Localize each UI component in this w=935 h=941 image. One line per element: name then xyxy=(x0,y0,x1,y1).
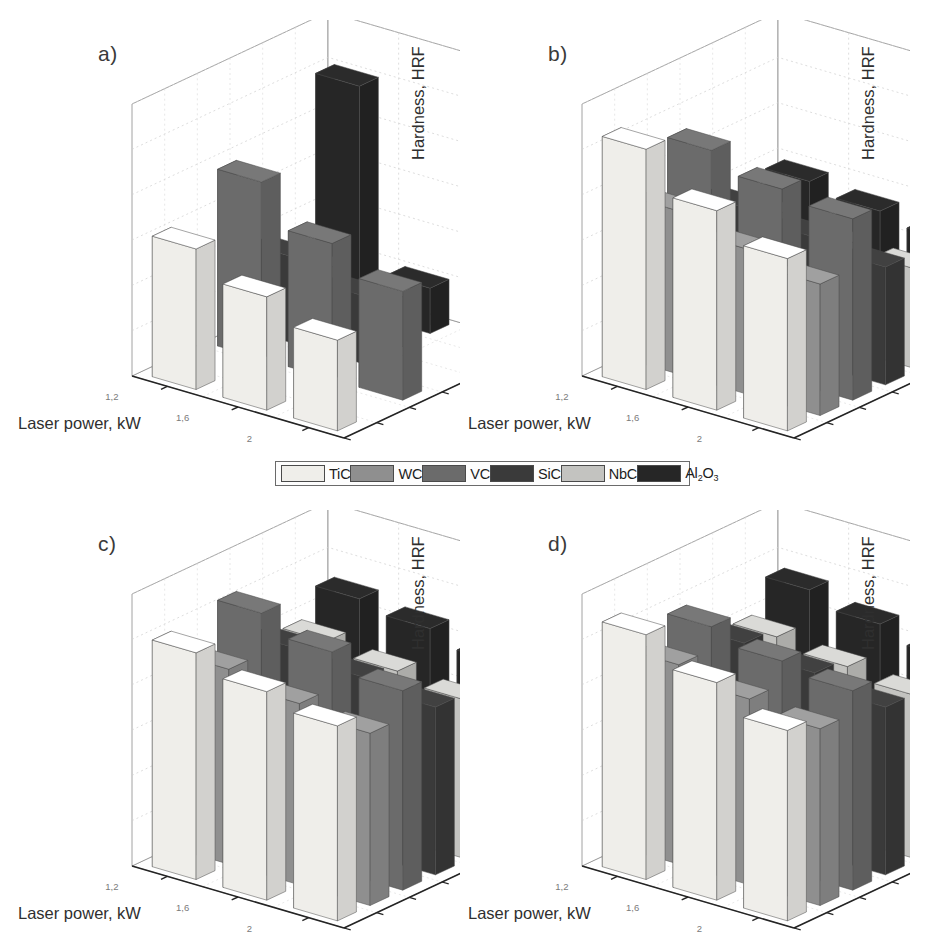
plot-area-b: 1,21,62020406080100120 xyxy=(470,20,910,470)
bar-c-TiC-1,2 xyxy=(152,631,215,879)
legend-label-sic: SiC xyxy=(538,466,561,482)
legend-swatch-vc xyxy=(422,465,466,482)
legend-label-nbc: NbC xyxy=(609,466,637,482)
x-axis-title-b: Laser power, kW xyxy=(468,414,678,433)
plot-area-d: 1,21,62020406080100120 xyxy=(470,510,910,941)
legend-item-al2o3: Al2O3 xyxy=(637,465,718,483)
plot-area-a: 1,21,62020406080100120 xyxy=(20,20,460,470)
x-tick-b-2: 2 xyxy=(697,433,702,444)
chart-panel-c: c) 1,21,62020406080100120 Laser power, k… xyxy=(20,510,460,941)
legend-item-tic: TiC xyxy=(281,465,350,482)
legend-label-al2o3-sub2: 3 xyxy=(714,473,719,483)
z-axis-title-a: Hardness, HRF xyxy=(409,46,428,160)
legend-label-al2o3-al: Al xyxy=(685,465,698,481)
chart-legend: TiC WC VC SiC NbC Al2O3 xyxy=(275,461,690,486)
chart-panel-b: b) 1,21,62020406080100120 Laser power, k… xyxy=(470,20,910,470)
bar-c-TiC-1,6 xyxy=(223,670,286,900)
legend-item-vc: VC xyxy=(422,465,490,482)
x-tick-c-0: 1,2 xyxy=(105,881,118,892)
chart-panel-a: a) 1,21,62020406080100120 Laser power, k… xyxy=(20,20,460,470)
legend-label-wc: WC xyxy=(398,466,422,482)
bar-d-TiC-1,2 xyxy=(602,613,665,880)
bar-b-TiC-1,6 xyxy=(673,189,736,410)
z-axis-title-b: Hardness, HRF xyxy=(859,46,878,160)
legend-swatch-tic xyxy=(281,465,325,482)
legend-swatch-wc xyxy=(350,465,394,482)
x-tick-b-0: 1,2 xyxy=(555,391,568,402)
x-tick-c-2: 2 xyxy=(247,923,252,934)
x-tick-d-2: 2 xyxy=(697,923,702,934)
x-axis-title-c: Laser power, kW xyxy=(18,904,228,923)
legend-label-vc: VC xyxy=(470,466,490,482)
z-axis-title-d: Hardness, HRF xyxy=(859,536,878,650)
bar-c-TiC-2 xyxy=(294,704,357,921)
legend-label-tic: TiC xyxy=(329,466,350,482)
x-tick-d-0: 1,2 xyxy=(555,881,568,892)
bar-d-TiC-2 xyxy=(744,709,807,921)
legend-label-al2o3-o: O xyxy=(702,465,713,481)
bar-a-TiC-1,2 xyxy=(152,227,215,389)
z-axis-title-c: Hardness, HRF xyxy=(409,536,428,650)
bar-a-TiC-1,6 xyxy=(223,275,286,410)
legend-swatch-sic xyxy=(490,465,534,482)
bar-d-TiC-1,6 xyxy=(673,661,736,900)
x-axis-title-d: Laser power, kW xyxy=(468,904,678,923)
bar-b-TiC-1,2 xyxy=(602,128,665,390)
x-tick-a-0: 1,2 xyxy=(105,391,118,402)
chart-panel-d: d) 1,21,62020406080100120 Laser power, k… xyxy=(470,510,910,941)
legend-item-wc: WC xyxy=(350,465,422,482)
legend-swatch-nbc xyxy=(561,465,605,482)
bar-a-VC-2 xyxy=(359,270,422,401)
legend-item-sic: SiC xyxy=(490,465,561,482)
legend-swatch-al2o3 xyxy=(637,465,681,482)
plot-area-c: 1,21,62020406080100120 xyxy=(20,510,460,941)
bar-b-TiC-2 xyxy=(744,237,807,431)
x-tick-a-2: 2 xyxy=(247,433,252,444)
legend-item-nbc: NbC xyxy=(561,465,637,482)
bar-a-TiC-2 xyxy=(294,318,357,430)
x-axis-title-a: Laser power, kW xyxy=(18,414,228,433)
legend-label-al2o3: Al2O3 xyxy=(685,465,718,483)
